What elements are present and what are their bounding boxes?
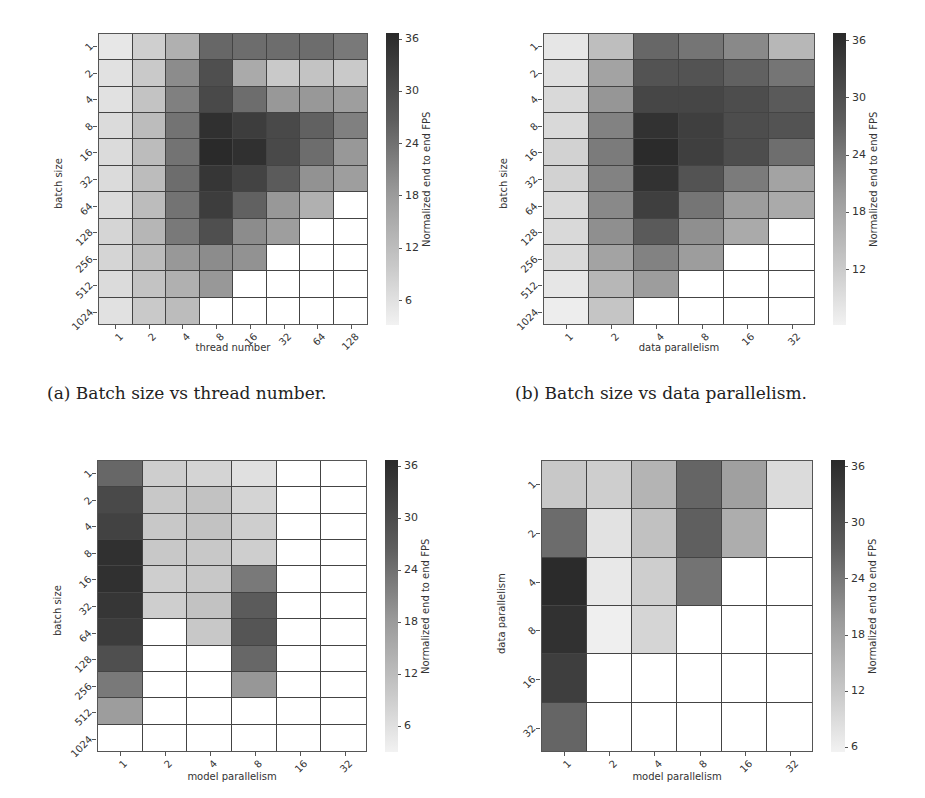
heatmap-cell [267, 113, 301, 139]
y-axis-label: batch size [52, 585, 63, 636]
heatmap-cell [233, 34, 267, 60]
y-tick-label: 4 [82, 521, 94, 533]
y-tick-label: 64 [523, 200, 540, 217]
heatmap-cell [321, 540, 366, 566]
colorbar-tick: 12 [845, 684, 865, 697]
heatmap-cell [542, 558, 587, 606]
heatmap-cell [334, 192, 368, 218]
heatmap-cell [277, 487, 322, 513]
heatmap-cell [166, 245, 200, 271]
colorbar-tick: 18 [399, 189, 419, 202]
heatmap-cell [187, 487, 232, 513]
y-tick-label: 2 [528, 67, 540, 79]
heatmap-cell [232, 461, 277, 487]
heatmap-cell [321, 619, 366, 645]
heatmap-cell [200, 192, 234, 218]
heatmap-cell [544, 271, 589, 297]
heatmap-cell [722, 703, 767, 751]
heatmap-cell [98, 461, 143, 487]
heatmap-cell [334, 271, 368, 297]
heatmap-cell [679, 166, 724, 192]
heatmap-cell [267, 166, 301, 192]
heatmap-cell [200, 87, 234, 113]
x-axis-label: thread number [98, 342, 368, 353]
heatmap-cell [589, 219, 634, 245]
heatmap-cell [277, 514, 322, 540]
heatmap-cell [233, 298, 267, 324]
heatmap-cell [634, 192, 679, 218]
x-tick-mark [566, 325, 567, 329]
colorbar-tick: 24 [399, 137, 419, 150]
heatmap-cell [542, 654, 587, 702]
heatmap-cell [187, 514, 232, 540]
heatmap-cell [724, 298, 769, 324]
heatmap-cell [133, 34, 167, 60]
heatmap-cell [267, 271, 301, 297]
x-tick-mark [165, 752, 166, 756]
heatmap-cell [99, 271, 133, 297]
heatmap-cell [767, 461, 812, 509]
y-tick-label: 32 [521, 722, 538, 739]
y-tick-label: 1024 [68, 733, 94, 759]
heatmap-cell [679, 139, 724, 165]
heatmap-cell [542, 461, 587, 509]
heatmap-cell [166, 298, 200, 324]
heatmap-cell [542, 606, 587, 654]
colorbar-tick: 30 [399, 84, 419, 97]
heatmap-cell [321, 487, 366, 513]
heatmap-cell [133, 113, 167, 139]
x-tick-label: 8 [252, 758, 264, 770]
heatmap-cell [187, 698, 232, 724]
heatmap-b [543, 33, 815, 325]
heatmap-cell [187, 566, 232, 592]
y-tick-label: 16 [523, 147, 540, 164]
heatmap-cell [300, 60, 334, 86]
heatmap-cell [769, 166, 814, 192]
heatmap-cell [233, 113, 267, 139]
heatmap-cell [589, 87, 634, 113]
heatmap-cell [334, 34, 368, 60]
heatmap-cell [589, 166, 634, 192]
x-tick-mark [345, 752, 346, 756]
heatmap-cell [334, 87, 368, 113]
heatmap-cell [267, 298, 301, 324]
heatmap-cell [98, 672, 143, 698]
heatmap-cell [724, 87, 769, 113]
heatmap-cell [133, 87, 167, 113]
x-tick-mark [702, 325, 703, 329]
heatmap-cell [542, 509, 587, 557]
x-axis-label: model parallelism [97, 771, 367, 782]
heatmap-cell [187, 593, 232, 619]
colorbar-tick: 12 [398, 667, 418, 680]
heatmap-cell [267, 245, 301, 271]
x-tick-mark [255, 752, 256, 756]
heatmap-cell [589, 298, 634, 324]
heatmap-cell [98, 540, 143, 566]
heatmap-cell [679, 192, 724, 218]
heatmap-cell [143, 593, 188, 619]
heatmap-cell [724, 34, 769, 60]
heatmap-cell [544, 192, 589, 218]
caption-a: (a) Batch size vs thread number. [47, 383, 326, 403]
x-tick-mark [747, 325, 748, 329]
heatmap-cell [300, 245, 334, 271]
heatmap-cell [334, 219, 368, 245]
heatmap-cell [634, 87, 679, 113]
heatmap-cell [321, 672, 366, 698]
x-tick-mark [115, 325, 116, 329]
colorbar-tick: 18 [846, 205, 866, 218]
heatmap-cell [769, 87, 814, 113]
colorbar-label: Normalized end to end FPS [420, 539, 431, 674]
heatmap-cell [632, 558, 677, 606]
heatmap-cell [232, 593, 277, 619]
heatmap-cell [277, 461, 322, 487]
heatmap-cell [321, 514, 366, 540]
heatmap-cell [200, 245, 234, 271]
heatmap-cell [98, 566, 143, 592]
heatmap-cell [544, 34, 589, 60]
y-tick-label: 4 [526, 576, 538, 588]
heatmap-cell [143, 566, 188, 592]
colorbar-a [386, 33, 399, 325]
heatmap-cell [300, 219, 334, 245]
x-tick-mark [317, 325, 318, 329]
